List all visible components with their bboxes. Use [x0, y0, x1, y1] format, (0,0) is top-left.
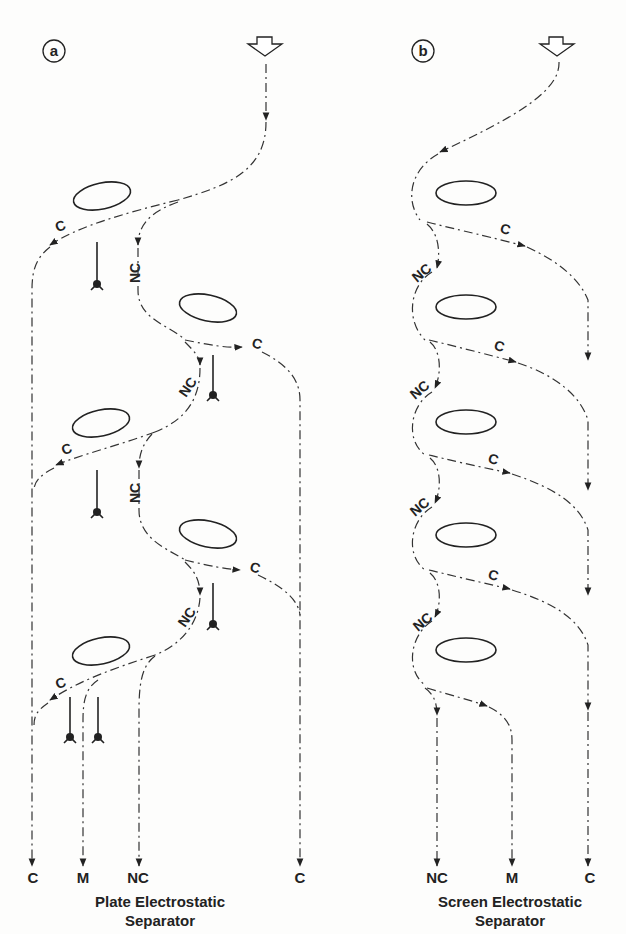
svg-text:C: C	[498, 220, 512, 238]
svg-text:C: C	[59, 439, 74, 457]
drum	[436, 181, 496, 205]
output-label: NC	[426, 869, 448, 886]
electrostatic-separator-diagram: a C NC C NC	[0, 0, 626, 934]
ground-electrode-icon	[207, 583, 219, 630]
svg-text:C: C	[486, 450, 500, 468]
panel-b-badge: b	[412, 40, 434, 62]
panel-b: b C NC C NC C NC C	[407, 37, 596, 886]
svg-text:NC: NC	[407, 377, 433, 402]
output-label: C	[28, 869, 39, 886]
output-label: M	[77, 869, 90, 886]
svg-text:C: C	[53, 673, 68, 691]
svg-text:C: C	[53, 217, 68, 235]
svg-text:a: a	[50, 42, 59, 59]
output-label: NC	[127, 869, 149, 886]
output-label: M	[506, 869, 519, 886]
svg-text:C: C	[250, 335, 264, 353]
drum	[436, 295, 496, 319]
ground-electrode-icon	[207, 355, 219, 401]
svg-text:NC: NC	[127, 483, 143, 503]
caption-line: Screen Electrostatic	[405, 892, 615, 911]
output-label: C	[585, 869, 596, 886]
svg-text:NC: NC	[127, 263, 143, 283]
drum	[71, 177, 133, 214]
svg-text:NC: NC	[175, 374, 200, 400]
svg-text:NC: NC	[407, 494, 433, 519]
svg-text:C: C	[248, 559, 262, 577]
drum	[70, 404, 132, 441]
output-label: C	[295, 869, 306, 886]
feed-arrow-icon	[540, 37, 574, 56]
drum	[177, 289, 239, 326]
caption-line: Separator	[405, 911, 615, 930]
drum	[436, 410, 496, 434]
drum	[177, 515, 239, 552]
ground-electrode-icon	[92, 697, 104, 743]
panel-a-caption: Plate ElectrostaticSeparator	[60, 892, 260, 930]
drum	[70, 632, 132, 669]
drum	[436, 523, 496, 547]
ground-electrode-icon	[64, 697, 76, 743]
svg-text:b: b	[418, 42, 427, 59]
ground-electrode-icon	[91, 470, 103, 518]
svg-text:C: C	[486, 566, 500, 584]
drum	[436, 638, 496, 662]
ground-electrode-icon	[91, 242, 103, 290]
panel-a-badge: a	[43, 40, 65, 62]
caption-line: Separator	[60, 911, 260, 930]
feed-arrow-icon	[248, 37, 282, 56]
panel-b-caption: Screen ElectrostaticSeparator	[405, 892, 615, 930]
svg-text:C: C	[492, 337, 506, 355]
panel-a: a C NC C NC	[28, 37, 306, 886]
caption-line: Plate Electrostatic	[60, 892, 260, 911]
